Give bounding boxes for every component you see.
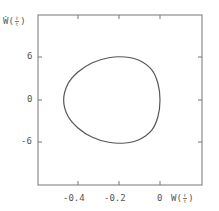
y-tick-label: 0 (27, 94, 32, 104)
y-axis-label: Ẇ(ℓt) (3, 16, 26, 27)
x-tick-label: 0 (157, 193, 162, 203)
x-ticks (78, 15, 160, 185)
phase-plot (0, 0, 219, 211)
x-axis-label: W(ℓt) (171, 193, 194, 204)
x-tick-label: -0.2 (104, 193, 126, 203)
phase-curve (64, 57, 160, 143)
plot-frame (38, 15, 202, 185)
y-tick-label: -6 (21, 136, 32, 146)
y-ticks (38, 57, 202, 142)
x-tick-label: -0.4 (63, 193, 85, 203)
y-tick-label: 6 (27, 51, 32, 61)
